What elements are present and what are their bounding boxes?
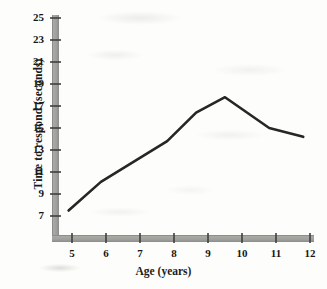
x-tick-label: 12: [300, 247, 320, 259]
line-chart: 25 23 21 19 17 15 13 11 9 7 5 6 7 8 9 10…: [0, 0, 327, 289]
data-series-line: [69, 97, 304, 210]
x-tick-label: 11: [266, 247, 286, 259]
x-tick-label: 6: [96, 247, 116, 259]
y-tick-label: 25: [22, 11, 44, 23]
x-axis-bar: [52, 235, 314, 242]
plot-area: [0, 0, 327, 289]
x-tick-label: 5: [62, 247, 82, 259]
x-tick-label: 10: [232, 247, 252, 259]
x-tick-label: 7: [130, 247, 150, 259]
x-axis-title: Age (years): [0, 265, 327, 277]
x-tick-label: 9: [198, 247, 218, 259]
x-tick-label: 8: [164, 247, 184, 259]
y-axis-title: Time to respond (seconds): [32, 34, 44, 214]
